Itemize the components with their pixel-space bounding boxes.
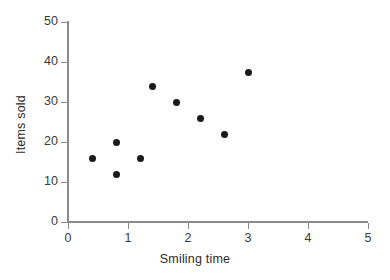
x-axis-tick xyxy=(308,223,309,229)
data-point xyxy=(221,131,228,138)
x-axis-tick xyxy=(68,223,69,229)
plot-area xyxy=(68,22,368,222)
x-axis-tick-label: 4 xyxy=(293,232,323,245)
data-point xyxy=(197,115,204,122)
x-axis-tick xyxy=(128,223,129,229)
data-point xyxy=(113,171,120,178)
x-axis-tick xyxy=(368,223,369,229)
y-axis-tick xyxy=(61,62,67,63)
y-axis-title: Items sold xyxy=(14,35,28,94)
data-point xyxy=(89,155,96,162)
data-point xyxy=(113,139,120,146)
y-axis-title-text: Items sold xyxy=(14,95,28,154)
y-axis-tick-label: 50 xyxy=(18,15,58,28)
y-axis-tick xyxy=(61,22,67,23)
y-axis-tick xyxy=(61,222,67,223)
data-point xyxy=(245,69,252,76)
x-axis-tick-label: 2 xyxy=(173,232,203,245)
y-axis-tick-label: 10 xyxy=(18,175,58,188)
data-point xyxy=(173,99,180,106)
y-axis-tick xyxy=(61,142,67,143)
y-axis-tick xyxy=(61,102,67,103)
x-axis-title: Smiling time xyxy=(0,252,390,266)
x-axis-tick-label: 3 xyxy=(233,232,263,245)
y-axis-tick-label: 0 xyxy=(18,215,58,228)
data-point xyxy=(137,155,144,162)
x-axis-tick-label: 5 xyxy=(353,232,383,245)
x-axis-tick xyxy=(188,223,189,229)
y-axis-tick xyxy=(61,182,67,183)
x-axis-tick-label: 1 xyxy=(113,232,143,245)
data-point xyxy=(149,83,156,90)
scatter-plot-figure: 01020304050 012345 Smiling time Items so… xyxy=(0,0,390,280)
x-axis-tick-label: 0 xyxy=(53,232,83,245)
x-axis-tick xyxy=(248,223,249,229)
